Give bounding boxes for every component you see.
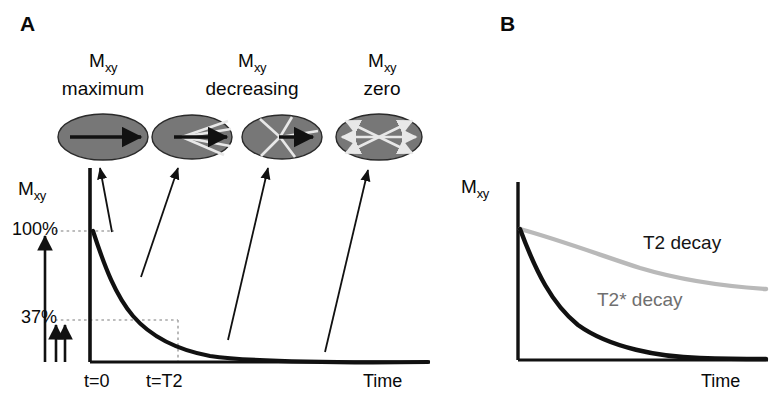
spin-ellipse-mxy-decreasing [152, 115, 232, 159]
pointer-arrow-to-ellipse-3 [228, 168, 268, 340]
panel-b-y-axis-label: Mxy [461, 176, 489, 201]
pointer-arrow-to-ellipse-4 [325, 170, 368, 352]
figure-root: A B Mxy maximum Mxy decreasing Mxy zero [0, 0, 780, 410]
panel-b-t2-decay-label: T2 decay [643, 232, 721, 254]
pointer-arrow-to-ellipse-1 [100, 168, 112, 232]
spin-ellipse-mxy-decreasing-more [242, 115, 322, 159]
spin-ellipse-mxy-zero [336, 114, 422, 160]
panel-a-xtick-t-t2: t=T2 [146, 371, 183, 392]
panel-b-t2star-decay-label: T2* decay [597, 289, 683, 311]
panel-b-x-axis-label: Time [701, 371, 740, 392]
panel-a-ytick-37: 37% [21, 307, 57, 328]
measurement-arrows [45, 236, 65, 362]
panel-a-decay-curve [93, 231, 428, 362]
panel-a-ytick-100: 100% [12, 219, 58, 240]
panel-a-y-axis-label: Mxy [18, 178, 46, 203]
guide-lines [55, 231, 178, 363]
spin-ellipse-mxy-maximum [58, 114, 148, 160]
panel-b-plot [518, 182, 768, 360]
panel-a-x-axis-label: Time [363, 371, 402, 392]
panel-a-xtick-t0: t=0 [84, 371, 110, 392]
pointer-arrow-to-ellipse-2 [141, 168, 178, 277]
spin-diagrams-layer [0, 0, 780, 410]
panel-a-plot [45, 168, 430, 363]
